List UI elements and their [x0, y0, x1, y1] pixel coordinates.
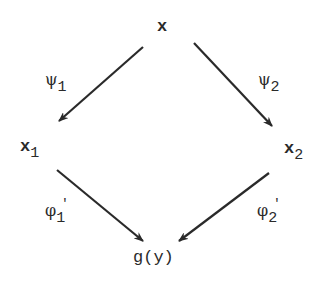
- node-x: x: [157, 18, 167, 35]
- node-x1-subscript: 1: [30, 145, 39, 162]
- phi-symbol: φ: [45, 201, 56, 220]
- phi2-subscript: 2: [268, 210, 277, 227]
- node-x1: x1: [20, 138, 39, 155]
- phi1-subscript: 1: [56, 210, 65, 227]
- node-x2-subscript: 2: [294, 147, 303, 164]
- label-phi1-prime: φ1': [45, 203, 65, 220]
- phi-symbol: φ: [257, 201, 268, 220]
- label-psi2: ψ2: [258, 72, 280, 89]
- node-gy: g(y): [133, 249, 174, 266]
- psi1-subscript: 1: [58, 79, 67, 96]
- label-phi2-prime: φ2': [257, 203, 277, 220]
- arrows-layer: [0, 0, 322, 286]
- node-x2: x2: [284, 140, 303, 157]
- psi2-subscript: 2: [271, 79, 280, 96]
- arrow-phi2: [179, 173, 269, 241]
- label-psi1: ψ1: [45, 72, 67, 89]
- prime-mark: ': [273, 197, 281, 210]
- node-gy-text: g(y): [133, 248, 174, 267]
- node-x2-text: x: [284, 139, 294, 158]
- node-x1-text: x: [20, 137, 30, 156]
- psi-symbol: ψ: [258, 70, 271, 89]
- prime-mark: ': [61, 197, 69, 210]
- arrow-psi1: [59, 47, 143, 121]
- psi-symbol: ψ: [45, 70, 58, 89]
- arrow-phi1: [57, 170, 143, 241]
- node-x-text: x: [157, 17, 167, 36]
